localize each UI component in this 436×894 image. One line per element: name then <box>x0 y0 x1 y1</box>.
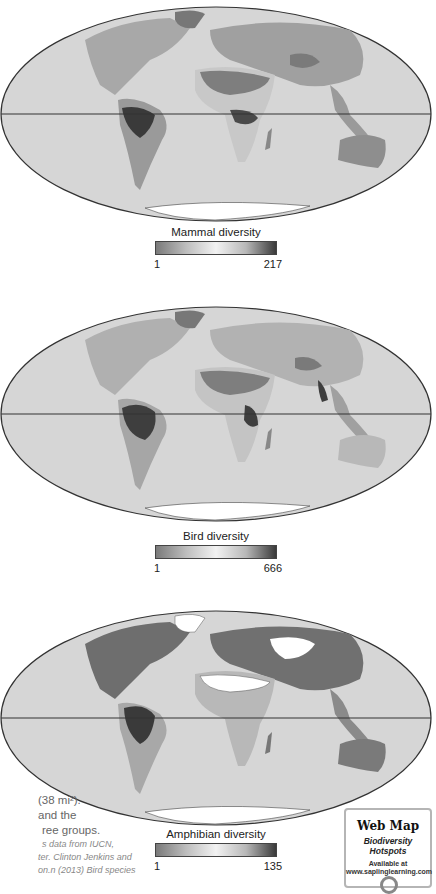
web-map-url-link[interactable]: www.saplinglearning.com <box>346 868 430 876</box>
mammal-map-panel: Mammal diversity 1 217 <box>0 0 436 285</box>
figure-caption: (38 mi²). and the ree groups. s data fro… <box>0 793 150 877</box>
legend-colorbar <box>155 843 277 857</box>
web-map-title: Web Map <box>346 819 430 833</box>
bird-map-panel: Bird diversity 1 666 <box>0 300 436 585</box>
legend-max-value: 217 <box>264 258 282 270</box>
caption-line: ree groups. <box>0 823 150 838</box>
caption-source-line: on.n (2013) Bird species <box>0 864 150 877</box>
legend-min-value: 1 <box>154 258 160 270</box>
caption-line: (38 mi²). <box>0 793 150 808</box>
legend-colorbar <box>155 545 277 559</box>
legend-max-value: 666 <box>264 562 282 574</box>
mammal-world-map <box>0 0 436 230</box>
legend-max-value: 135 <box>264 860 282 872</box>
legend-min-value: 1 <box>154 562 160 574</box>
legend-title: Bird diversity <box>154 530 278 542</box>
bird-world-map <box>0 300 436 530</box>
caption-source-line: s data from IUCN, <box>0 838 150 851</box>
legend-title: Amphibian diversity <box>154 828 278 840</box>
web-map-subtitle: Biodiversity Hotspots <box>346 836 430 856</box>
caption-line: and the <box>0 808 150 823</box>
legend-min-value: 1 <box>154 860 160 872</box>
legend-colorbar <box>155 241 277 255</box>
web-map-callout[interactable]: Web Map Biodiversity Hotspots Available … <box>344 808 432 888</box>
legend-title: Mammal diversity <box>154 226 278 238</box>
web-map-available-label: Available at <box>346 860 430 868</box>
globe-icon <box>380 876 398 894</box>
caption-source-line: ter. Clinton Jenkins and <box>0 851 150 864</box>
